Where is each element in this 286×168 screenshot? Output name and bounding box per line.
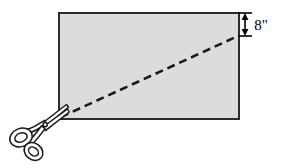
- figure-canvas: 8": [0, 0, 286, 168]
- arrowhead-up-icon: [242, 13, 249, 20]
- gray-rectangle: [59, 13, 239, 119]
- scissors: [7, 105, 69, 165]
- height-dimension-label: 8": [254, 17, 268, 33]
- arrowhead-down-icon: [242, 29, 249, 36]
- diagram-svg: 8": [0, 0, 286, 168]
- scissor-pivot-screw: [43, 123, 47, 127]
- height-dimension-arrow: [238, 13, 252, 36]
